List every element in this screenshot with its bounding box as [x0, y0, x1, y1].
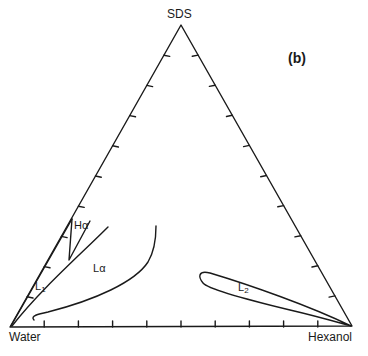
phase-l-alpha-greek: α — [99, 262, 105, 274]
l2-boundary — [200, 272, 351, 326]
phase-h-alpha-base: H — [74, 219, 82, 231]
phase-l2-subscript: 2 — [244, 286, 248, 295]
l1-boundary — [11, 219, 72, 326]
phase-h-alpha-greek: α — [82, 219, 88, 231]
ternary-diagram — [0, 0, 368, 356]
phase-label-l2: L2 — [238, 281, 249, 295]
vertex-label-water: Water — [9, 330, 41, 344]
phase-label-l-alpha: Lα — [93, 262, 105, 274]
vertex-label-hexanol: Hexanol — [308, 330, 352, 344]
right-axis-ticks — [192, 55, 335, 297]
triangle-frame — [10, 25, 352, 327]
phase-label-l1: L1 — [35, 280, 46, 294]
l-alpha-inner-boundary — [12, 227, 108, 326]
phase-label-h-alpha: Hα — [74, 219, 88, 231]
panel-label: (b) — [288, 50, 306, 66]
phase-l1-subscript: 1 — [41, 285, 45, 294]
vertex-label-sds: SDS — [167, 7, 192, 21]
